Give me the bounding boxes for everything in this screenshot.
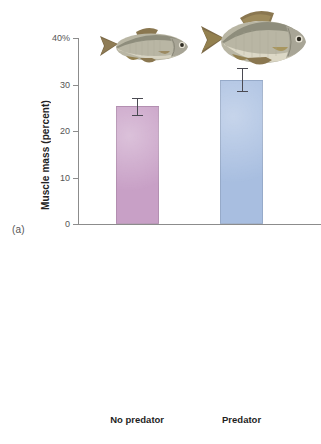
panel-label-a: (a) (12, 224, 25, 235)
panel-b: Acceleration (m/s²) 01020304050 (b) No p… (0, 240, 321, 444)
y-tick-label-0-1: 10 (60, 173, 70, 183)
error-bar-0-1 (242, 68, 243, 91)
y-tick-label-0-3: 30 (60, 80, 70, 90)
x-axis-line-a (78, 224, 321, 225)
y-axis-line-a (78, 38, 79, 225)
y-tick-0-2 (73, 131, 78, 132)
x-category-label-no-predator: No predator (110, 414, 164, 425)
y-tick-label-0-0: 0 (65, 219, 70, 229)
panel-a: Muscle mass (percent) 010203040% (a) (0, 0, 321, 240)
error-cap-0-1-lower (237, 91, 248, 92)
error-cap-0-0-lower (132, 115, 143, 116)
bar-a-no-predator (116, 106, 159, 224)
y-axis-title-a: Muscle mass (percent) (40, 60, 51, 210)
y-tick-0-0 (73, 224, 78, 225)
error-bar-0-0 (137, 98, 138, 115)
x-category-label-predator: Predator (222, 414, 261, 425)
error-cap-0-1-upper (237, 68, 248, 69)
figure-container: Muscle mass (percent) 010203040% (a) Acc… (0, 0, 321, 444)
y-tick-label-0-4: 40% (52, 33, 70, 43)
error-cap-0-0-upper (132, 98, 143, 99)
y-tick-0-1 (73, 178, 78, 179)
y-tick-0-3 (73, 85, 78, 86)
bar-a-predator (220, 80, 263, 224)
y-tick-label-0-2: 20 (60, 126, 70, 136)
plot-area-a: 010203040% (78, 38, 310, 225)
y-tick-0-4 (73, 38, 78, 39)
